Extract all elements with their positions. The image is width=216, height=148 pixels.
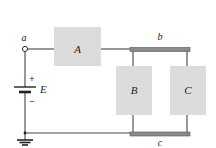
element-C-label: C <box>184 84 192 96</box>
wires <box>25 49 187 140</box>
bus-b <box>130 48 190 52</box>
bus-c <box>130 132 190 136</box>
battery-plus-sign: + <box>29 74 34 84</box>
junction-dot <box>24 132 27 135</box>
element-A-label: A <box>73 43 81 55</box>
battery-icon <box>14 87 36 92</box>
node-b-label: b <box>158 31 163 42</box>
element-B-label: B <box>131 84 138 96</box>
circuit-diagram: A B C a b c + − E <box>0 0 216 148</box>
node-c-label: c <box>158 137 163 148</box>
ground-icon <box>17 140 33 145</box>
battery-minus-sign: − <box>29 96 34 106</box>
node-a-label: a <box>22 32 27 43</box>
node-a-terminal-icon <box>22 46 27 51</box>
source-E-label: E <box>39 83 47 95</box>
